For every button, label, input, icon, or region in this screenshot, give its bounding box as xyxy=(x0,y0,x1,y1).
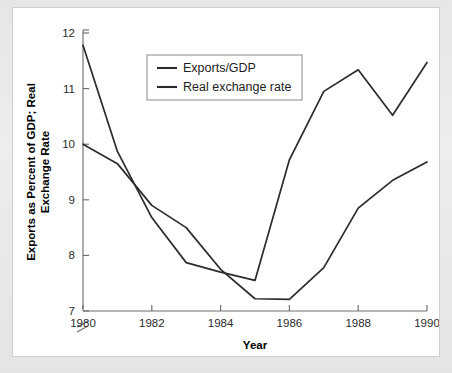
x-tick-label-1980: 1980 xyxy=(70,317,96,329)
x-tick-label-1986: 1986 xyxy=(277,317,303,329)
top-cut-off-text xyxy=(60,0,260,5)
x-tick-labels: 198019821984198619881990 xyxy=(70,317,439,329)
y-axis-title-line-2: Exchange Rate xyxy=(39,131,51,213)
legend-label-1: Real exchange rate xyxy=(183,80,291,94)
y-axis-title: Exports as Percent of GDP; RealExchange … xyxy=(25,83,51,261)
y-tick-label-10: 10 xyxy=(62,138,75,150)
y-axis: 789101112 xyxy=(62,27,89,332)
y-tick-label-7: 7 xyxy=(69,305,75,317)
y-tick-label-8: 8 xyxy=(69,249,75,261)
y-tick-marks xyxy=(83,30,89,311)
figure-root: 789101112 198019821984198619881990 Expor… xyxy=(0,0,452,373)
y-tick-label-11: 11 xyxy=(63,83,75,95)
x-tick-label-1984: 1984 xyxy=(208,317,234,329)
y-tick-label-9: 9 xyxy=(69,194,75,206)
x-tick-marks xyxy=(83,305,427,311)
line-chart: 789101112 198019821984198619881990 Expor… xyxy=(13,8,439,356)
chart-panel: 789101112 198019821984198619881990 Expor… xyxy=(12,7,440,357)
y-tick-label-12: 12 xyxy=(62,27,75,39)
legend-label-0: Exports/GDP xyxy=(183,61,256,75)
x-axis: 198019821984198619881990 xyxy=(70,305,439,329)
y-axis-title-line-1: Exports as Percent of GDP; Real xyxy=(25,83,37,261)
x-tick-label-1982: 1982 xyxy=(139,317,165,329)
x-tick-label-1990: 1990 xyxy=(414,317,439,329)
series-line-exports-gdp xyxy=(83,144,427,299)
y-tick-labels: 789101112 xyxy=(62,27,75,317)
x-axis-title: Year xyxy=(243,339,268,351)
chart-legend: Exports/GDPReal exchange rate xyxy=(147,55,302,100)
x-tick-label-1988: 1988 xyxy=(345,317,371,329)
